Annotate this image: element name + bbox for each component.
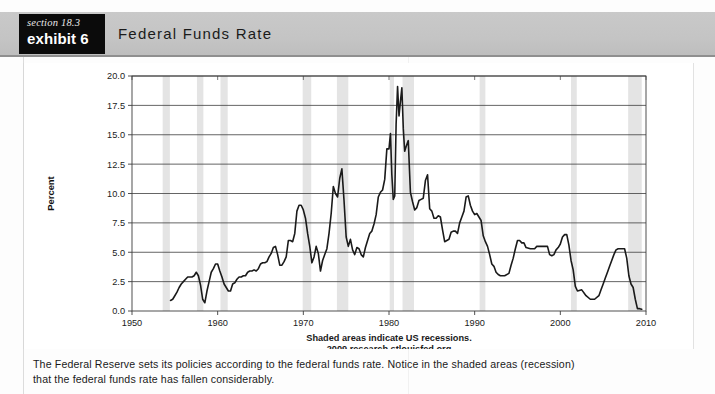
chart-plot-area: 0.02.55.07.510.012.515.017.520.019501960… <box>24 63 693 349</box>
page-title: Federal Funds Rate <box>118 25 272 42</box>
xtick-label-2000: 2000 <box>550 318 570 328</box>
ytick-label-17.5: 17.5 <box>107 101 125 111</box>
caption-line-1: The Federal Reserve sets its policies ac… <box>33 357 693 372</box>
ytick-label-15: 15.0 <box>107 130 125 140</box>
ytick-label-0: 0.0 <box>112 306 125 316</box>
chart-annotation-0: Shaded areas indicate US recessions. <box>306 333 471 343</box>
y-axis-title: Percent <box>45 176 56 210</box>
exhibit-caption: The Federal Reserve sets its policies ac… <box>33 357 693 387</box>
ytick-label-20: 20.0 <box>107 71 125 81</box>
section-label: section 18.3 <box>27 17 80 28</box>
ytick-label-7.5: 7.5 <box>112 218 125 228</box>
xtick-label-1960: 1960 <box>207 318 227 328</box>
xtick-label-2010: 2010 <box>636 318 656 328</box>
xtick-label-1980: 1980 <box>379 318 399 328</box>
header-band <box>0 12 715 57</box>
caption-line-2: that the federal funds rate has fallen c… <box>33 372 693 387</box>
ytick-label-2.5: 2.5 <box>112 277 125 287</box>
xtick-label-1970: 1970 <box>293 318 313 328</box>
exhibit-badge: section 18.3 exhibit 6 <box>19 14 105 54</box>
exhibit-page: section 18.3 exhibit 6 Federal Funds Rat… <box>0 0 715 394</box>
federal-funds-rate-line-chart: 0.02.55.07.510.012.515.017.520.019501960… <box>24 63 693 349</box>
chart-card: 0.02.55.07.510.012.515.017.520.019501960… <box>23 63 694 349</box>
exhibit-label: exhibit 6 <box>27 30 89 47</box>
ytick-label-5: 5.0 <box>112 248 125 258</box>
xtick-label-1990: 1990 <box>464 318 484 328</box>
chart-annotation-1: 2009 research.stlouisfed.org <box>327 344 452 349</box>
ytick-label-12.5: 12.5 <box>107 160 125 170</box>
ytick-label-10: 10.0 <box>107 189 125 199</box>
xtick-label-1950: 1950 <box>122 318 142 328</box>
